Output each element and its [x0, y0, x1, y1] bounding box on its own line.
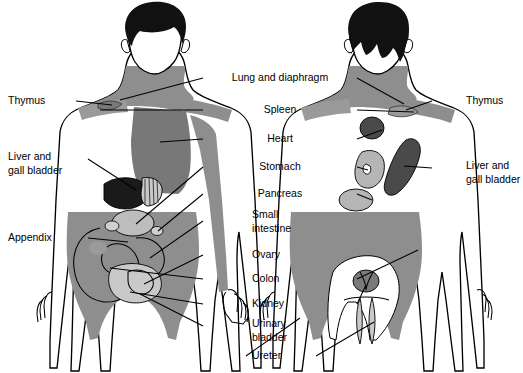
front-left-hand [37, 292, 52, 322]
label-ureter: Ureter [252, 349, 282, 361]
front-view-figure [37, 2, 261, 371]
label-urinary-bladder-line1: Urinary [252, 317, 287, 329]
heart-organ-back [360, 117, 384, 139]
label-kidney: Kidney [252, 297, 285, 309]
label-liver-right-line1: Liver and [466, 159, 509, 171]
label-thymus-left: Thymus [8, 94, 45, 106]
liver-organ-front [104, 178, 147, 209]
label-stomach: Stomach [259, 160, 301, 172]
label-liver-left-line2: gall bladder [8, 164, 63, 176]
label-appendix: Appendix [8, 231, 53, 243]
label-spleen: Spleen [264, 103, 297, 115]
label-heart: Heart [267, 132, 293, 144]
label-colon: Colon [252, 272, 280, 284]
label-ovary: Ovary [252, 248, 281, 260]
label-pancreas: Pancreas [258, 187, 302, 199]
label-small-intestine-line2: intestine [252, 222, 291, 234]
pancreas-organ-back [339, 189, 373, 211]
label-thymus-right: Thymus [466, 94, 503, 106]
label-urinary-bladder-line2: bladder [252, 331, 288, 343]
referred-pain-diagram: Thymus Liver and gall bladder Appendix L… [0, 0, 523, 373]
label-liver-left-line1: Liver and [8, 150, 51, 162]
pancreas-organ-front [105, 221, 119, 231]
label-liver-right-line2: gall bladder [466, 173, 521, 185]
appendix-organ-front [89, 241, 107, 255]
label-small-intestine-line1: Small [252, 208, 278, 220]
label-lung-and-diaphragm: Lung and diaphragm [232, 71, 329, 83]
ureter-organ-back-left [357, 298, 363, 344]
